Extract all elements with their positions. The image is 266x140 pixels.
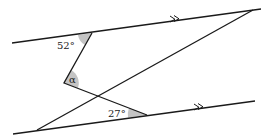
angle-52-shade <box>78 33 92 45</box>
angle-27-label: 27° <box>108 108 126 119</box>
angle-alpha-label: α <box>69 74 76 85</box>
angle-52-label: 52° <box>57 40 75 51</box>
bottom-parallel-arrow-icon <box>194 104 203 111</box>
zigzag-line <box>64 33 147 115</box>
diagonal-transversal <box>37 10 253 130</box>
bottom-parallel-line <box>13 101 255 134</box>
parallel-lines-diagram: 52° α 27° <box>0 0 266 140</box>
